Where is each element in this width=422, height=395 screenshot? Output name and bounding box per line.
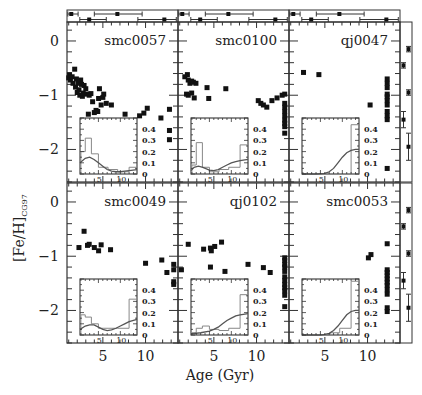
right-errorbar-strip: [400, 22, 412, 182]
data-point: [385, 292, 390, 297]
data-point: [223, 86, 228, 91]
inset-y-tick-label: 0.1: [364, 319, 378, 329]
error-point: [337, 12, 341, 16]
data-point: [137, 113, 142, 118]
error-point: [87, 18, 91, 22]
inset-y-tick-label: 0.2: [253, 308, 267, 318]
inset-frame: [191, 118, 248, 174]
inset-frame: [80, 118, 137, 174]
error-point: [407, 208, 411, 212]
data-point: [82, 229, 87, 234]
data-point: [108, 247, 113, 252]
x-tick-label: 5: [98, 348, 107, 364]
y-axis-label-sub: CG97: [20, 194, 29, 217]
error-point: [407, 91, 411, 95]
inset-y-tick-label: 0.1: [253, 158, 267, 168]
inset-frame: [302, 279, 359, 335]
data-point: [385, 98, 390, 103]
data-point: [97, 86, 102, 91]
data-point: [282, 293, 287, 298]
top-errorbar-strip: [178, 10, 289, 22]
y-axis-label-main: [Fe/H]: [11, 217, 27, 262]
inset-y-tick-label: 0.2: [253, 147, 267, 157]
data-point: [385, 166, 390, 171]
x-tick-label: 10: [359, 348, 377, 364]
panel-title: qj0102: [230, 193, 277, 209]
error-point: [198, 18, 202, 22]
data-point: [385, 309, 390, 314]
right-errorbar-strip: [400, 183, 412, 343]
data-point: [145, 106, 150, 111]
error-point: [309, 18, 313, 22]
error-point: [69, 12, 73, 16]
data-point: [219, 240, 224, 245]
data-point: [159, 258, 164, 263]
inset-y-tick-label: 0: [364, 169, 370, 179]
data-point: [385, 117, 390, 122]
inset-y-tick-label: 0.3: [253, 135, 267, 145]
data-point: [96, 248, 101, 253]
error-point: [407, 145, 411, 149]
inset-y-tick-label: 0: [142, 330, 148, 340]
panel-qj0102: 510qj010251000.10.20.30.4: [178, 183, 289, 364]
inset-y-tick-label: 0: [253, 169, 259, 179]
data-point: [192, 95, 197, 100]
data-point: [205, 85, 210, 90]
data-point: [282, 113, 287, 118]
inset-y-tick-label: 0.4: [253, 124, 267, 134]
data-point: [368, 102, 373, 107]
data-point: [95, 109, 100, 114]
error-point: [402, 224, 406, 228]
data-point: [99, 242, 104, 247]
y-tick-label: 0: [50, 33, 59, 49]
data-point: [164, 270, 169, 275]
data-point: [282, 92, 287, 97]
data-point: [212, 244, 217, 249]
data-point: [86, 112, 91, 117]
data-point: [385, 241, 390, 246]
inset-x-tick-label: 10: [227, 336, 237, 345]
data-point: [171, 282, 176, 287]
panel-title: qj0047: [341, 32, 388, 48]
inset-y-tick-label: 0.1: [142, 158, 156, 168]
inset-y-tick-label: 0.4: [364, 124, 378, 134]
data-point: [282, 269, 287, 274]
inset-y-tick-label: 0.3: [142, 296, 156, 306]
x-tick-label: 10: [248, 348, 266, 364]
inset-y-tick-label: 0.4: [142, 285, 156, 295]
data-point: [88, 91, 93, 96]
inset-frame: [80, 279, 137, 335]
inset-y-tick-label: 0.4: [142, 124, 156, 134]
inset-histogram: 51000.10.20.30.4: [302, 118, 378, 184]
error-point: [384, 18, 388, 22]
data-point: [222, 269, 227, 274]
data-point: [246, 262, 251, 267]
data-point: [104, 101, 109, 106]
inset-y-tick-label: 0: [142, 169, 148, 179]
data-point: [70, 74, 75, 79]
data-point: [385, 76, 390, 81]
data-point: [72, 67, 77, 72]
data-point: [167, 107, 172, 112]
y-tick-label: −2: [38, 141, 59, 157]
error-point: [402, 118, 406, 122]
data-point: [282, 105, 287, 110]
data-point: [83, 86, 88, 91]
error-point: [115, 12, 119, 16]
inset-x-tick-label: 10: [338, 336, 348, 345]
data-point: [268, 270, 273, 275]
data-point: [76, 87, 81, 92]
error-point: [407, 47, 411, 51]
x-tick-label: 5: [209, 348, 218, 364]
data-point: [385, 102, 390, 107]
data-point: [101, 92, 106, 97]
inset-y-tick-label: 0.2: [364, 308, 378, 318]
inset-y-tick-label: 0.2: [364, 147, 378, 157]
data-point: [76, 245, 81, 250]
y-axis-label: [Fe/H]CG97: [11, 194, 29, 262]
data-point: [189, 91, 194, 96]
data-point: [109, 102, 114, 107]
data-point: [385, 283, 390, 288]
inset-y-tick-label: 0.2: [142, 147, 156, 157]
data-point: [193, 81, 198, 86]
